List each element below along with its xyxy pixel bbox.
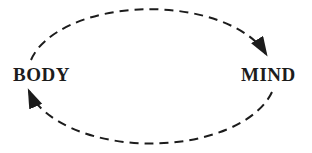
node-label-mind: MIND [241, 65, 296, 85]
body-to-mind-arrow [31, 9, 266, 60]
mind-to-body-arrow [29, 91, 272, 144]
diagram-canvas: BODY MIND [0, 0, 312, 153]
node-label-body: BODY [13, 65, 70, 85]
